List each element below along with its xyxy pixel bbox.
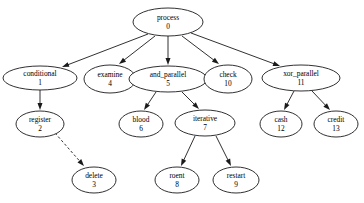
arrowhead-icon [226,159,231,166]
edge-layer [38,33,331,166]
node-label-name: restart [227,171,246,180]
edge-n1-to-n2 [38,90,43,110]
node-label-number: 11 [297,78,304,87]
edge-n5-to-n6 [144,92,156,110]
node-check[interactable]: check10 [204,65,252,93]
edge-line [183,136,195,161]
node-delete[interactable]: delete3 [72,167,116,193]
edge-line [312,91,326,106]
edge-line [55,133,80,162]
edge-n0-to-n1 [62,34,148,67]
node-label-name: process [157,13,179,22]
edge-n11-to-n13 [312,91,330,110]
edge-line [216,136,228,161]
edge-n7-to-n9 [216,136,231,166]
arrowhead-icon [62,62,69,67]
node-label-name: delete [85,171,103,180]
edge-n5-to-n7 [182,92,199,109]
edge-n0-to-n10 [182,36,219,64]
edge-n0-to-n5 [166,36,171,65]
edge-line [191,33,275,64]
node-label-number: 1 [38,78,42,87]
node-label-name: blood [133,115,150,124]
node-label-number: 3 [92,180,96,189]
edge-n2-to-n3 [55,133,84,166]
edge-n0-to-n4 [119,36,155,64]
node-process[interactable]: process0 [133,8,203,36]
arrowhead-icon [166,58,171,65]
edge-line [124,36,155,60]
arrowhead-icon [38,103,43,110]
node-label-number: 6 [139,124,143,133]
node-label-name: and_parallel [150,70,187,79]
node-label-number: 7 [203,123,207,132]
arrowhead-icon [181,159,186,166]
node-label-number: 10 [224,79,232,88]
node-label-number: 2 [38,124,42,133]
arrowhead-icon [212,58,219,64]
node-label-number: 0 [166,22,170,31]
node-label-name: cash [274,115,287,124]
edge-line [147,92,156,105]
node-label-number: 5 [166,79,170,88]
node-label-number: 4 [108,79,112,88]
node-and_parallel[interactable]: and_parallel5 [129,66,207,92]
edge-n7-to-n8 [181,136,195,166]
node-label-name: examine [97,70,123,79]
node-label-name: roent [169,171,185,180]
edge-line [67,34,148,65]
node-label-name: check [219,70,237,79]
node-layer: process0conditional1examine4and_parallel… [3,8,358,193]
node-blood[interactable]: blood6 [119,111,163,137]
node-label-name: register [29,115,52,124]
node-conditional[interactable]: conditional1 [3,66,77,90]
arrowhead-icon [273,61,280,66]
arrowhead-icon [284,103,289,110]
node-label-name: iterative [193,114,218,123]
node-label-number: 9 [234,180,238,189]
node-xor_parallel[interactable]: xor_parallel11 [262,65,340,91]
node-examine[interactable]: examine4 [84,65,136,93]
edge-n11-to-n12 [284,91,294,110]
edge-line [287,91,294,105]
node-label-name: conditional [23,69,56,78]
node-register[interactable]: register2 [16,111,64,137]
node-label-name: xor_parallel [283,69,319,78]
node-restart[interactable]: restart9 [213,167,259,193]
arrowhead-icon [144,103,150,110]
edge-line [182,92,195,105]
node-iterative[interactable]: iterative7 [175,110,235,136]
node-credit[interactable]: credit13 [314,111,358,137]
process-tree-diagram: process0conditional1examine4and_parallel… [0,0,364,203]
node-roent[interactable]: roent8 [155,167,199,193]
node-label-number: 12 [277,124,285,133]
node-cash[interactable]: cash12 [260,111,302,137]
edge-n0-to-n11 [191,33,280,66]
node-label-name: credit [328,115,346,124]
arrowhead-icon [119,58,126,64]
node-label-number: 13 [332,124,340,133]
node-label-number: 8 [175,180,179,189]
